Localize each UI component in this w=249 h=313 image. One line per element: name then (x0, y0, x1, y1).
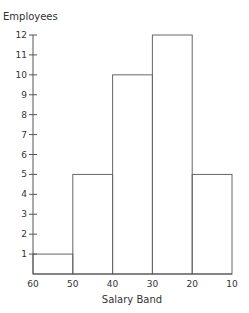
y-tick-label: 6 (21, 150, 27, 160)
bars (33, 35, 232, 274)
x-ticks: 605040302010 (27, 279, 238, 289)
y-tick-label: 7 (21, 130, 27, 140)
x-tick-label: 20 (186, 279, 198, 289)
x-tick-label: 60 (27, 279, 39, 289)
y-ticks: 123456789101112 (16, 30, 37, 259)
x-tick-label: 50 (67, 279, 79, 289)
y-tick-label: 11 (16, 50, 27, 60)
y-tick-label: 12 (16, 30, 27, 40)
y-axis-label: Employees (3, 11, 58, 22)
y-tick-label: 3 (21, 209, 27, 219)
bar-40-30 (113, 75, 153, 274)
y-tick-label: 4 (21, 189, 27, 199)
bar-20-10 (192, 174, 232, 274)
y-tick-label: 1 (21, 249, 27, 259)
x-tick-label: 40 (107, 279, 119, 289)
y-tick-label: 10 (16, 70, 28, 80)
histogram-chart: Employees 123456789101112 605040302010 S… (0, 0, 249, 313)
x-axis-label: Salary Band (102, 294, 162, 305)
bar-60-50 (33, 254, 73, 274)
y-tick-label: 2 (21, 229, 27, 239)
y-tick-label: 5 (21, 169, 27, 179)
y-tick-label: 8 (21, 110, 27, 120)
y-tick-label: 9 (21, 90, 27, 100)
bar-30-20 (152, 35, 192, 274)
x-tick-label: 10 (226, 279, 238, 289)
bar-50-40 (73, 174, 113, 274)
x-tick-label: 30 (147, 279, 159, 289)
